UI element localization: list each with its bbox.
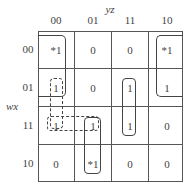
cell-10-10: 0 <box>149 145 185 182</box>
col-label-10: 10 <box>155 15 179 26</box>
cell-00-01: 0 <box>75 31 111 68</box>
column-11-group <box>122 78 136 136</box>
col-variable-label: yz <box>100 4 120 15</box>
row-label-11: 11 <box>20 120 36 131</box>
row-variable-label: wx <box>4 101 20 112</box>
row-label-00: 00 <box>20 44 36 55</box>
cell-10-11: 0 <box>112 145 148 182</box>
cell-00-11: 0 <box>112 31 148 68</box>
corner-group-right <box>156 35 183 97</box>
dashed-horizontal-group <box>47 116 99 131</box>
col-label-01: 01 <box>81 15 105 26</box>
cell-11-10: 0 <box>149 107 185 144</box>
cell-10-00: 0 <box>38 145 74 182</box>
col-label-00: 00 <box>44 15 68 26</box>
cell-01-01: 0 <box>75 69 111 106</box>
row-label-01: 01 <box>20 82 36 93</box>
col-label-11: 11 <box>118 15 142 26</box>
row-label-10: 10 <box>20 158 36 169</box>
